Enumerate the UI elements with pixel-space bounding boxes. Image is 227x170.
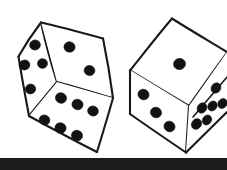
dice-illustration [0, 0, 227, 170]
bottom-black-bar [0, 158, 227, 170]
dice-drawing-canvas [0, 0, 227, 170]
right-die [130, 18, 227, 153]
left-die [18, 22, 113, 152]
